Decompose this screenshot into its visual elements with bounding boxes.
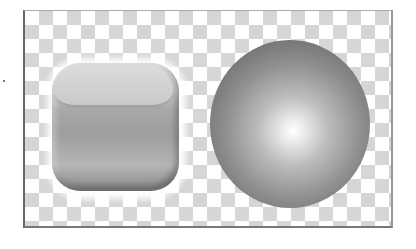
- gloss-highlight: [54, 65, 173, 105]
- checkerboard-canvas: [23, 10, 393, 228]
- rounded-square-button-icon: [52, 63, 179, 191]
- sphere-icon: [210, 40, 370, 208]
- stray-mark: [3, 80, 5, 82]
